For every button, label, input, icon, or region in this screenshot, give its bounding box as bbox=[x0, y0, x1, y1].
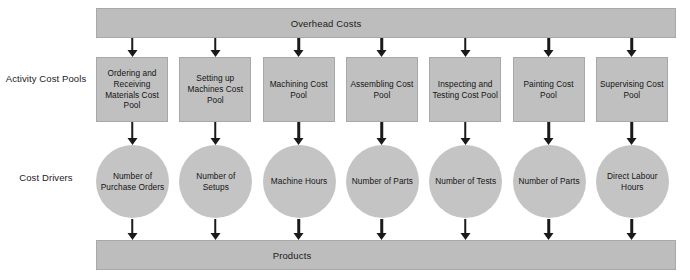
arrow-head bbox=[377, 233, 387, 240]
arrow-shaft bbox=[631, 219, 634, 233]
row-label-cost-drivers: Cost Drivers bbox=[0, 172, 92, 184]
cost-driver-label: Machine Hours bbox=[268, 176, 330, 187]
activity-based-costing-diagram: Overhead Costs Activity Cost Pools Cost … bbox=[0, 0, 690, 280]
arrow-shaft bbox=[131, 38, 134, 50]
cost-pool-box: Assembling Cost Pool bbox=[346, 57, 418, 122]
arrow-head bbox=[627, 233, 637, 240]
cost-driver-oval: Direct Labour Hours bbox=[596, 145, 669, 218]
arrow-head bbox=[544, 138, 554, 145]
cost-pool-box: Setting up Machines Cost Pool bbox=[179, 57, 251, 122]
arrow-shaft bbox=[631, 122, 634, 138]
arrow-shaft bbox=[547, 219, 550, 233]
arrow-head bbox=[460, 233, 470, 240]
arrow-cost-driver-to-products bbox=[543, 219, 554, 240]
arrow-cost-driver-to-products bbox=[293, 219, 304, 240]
arrow-head bbox=[127, 50, 137, 57]
arrow-cost-pool-to-cost-driver bbox=[460, 122, 471, 145]
arrow-cost-pool-to-cost-driver bbox=[543, 122, 554, 145]
arrow-head bbox=[460, 50, 470, 57]
cost-driver-label: Number of Parts bbox=[515, 176, 582, 187]
cost-driver-oval: Number of Purchase Orders bbox=[96, 145, 169, 218]
cost-pool-column: Painting Cost PoolNumber of Parts bbox=[513, 0, 585, 280]
cost-pool-box: Ordering and Receiving Materials Cost Po… bbox=[96, 57, 168, 122]
cost-driver-oval: Number of Setups bbox=[179, 145, 252, 218]
arrow-shaft bbox=[547, 38, 550, 50]
arrow-cost-pool-to-cost-driver bbox=[293, 122, 304, 145]
arrow-overhead-to-cost-pool bbox=[376, 38, 387, 57]
cost-pool-box: Inspecting and Testing Cost Pool bbox=[429, 57, 501, 122]
cost-pool-label: Supervising Cost Pool bbox=[597, 79, 667, 101]
arrow-head bbox=[377, 50, 387, 57]
cost-driver-oval: Machine Hours bbox=[263, 145, 336, 218]
arrow-shaft bbox=[131, 219, 134, 233]
arrow-shaft bbox=[131, 122, 134, 138]
cost-pool-column: Assembling Cost PoolNumber of Parts bbox=[346, 0, 418, 280]
arrow-shaft bbox=[214, 122, 217, 138]
arrow-overhead-to-cost-pool bbox=[127, 38, 138, 57]
arrow-head bbox=[294, 138, 304, 145]
arrow-head bbox=[294, 233, 304, 240]
arrow-head bbox=[460, 138, 470, 145]
cost-driver-oval: Number of Tests bbox=[429, 145, 502, 218]
arrow-shaft bbox=[631, 38, 634, 50]
arrow-shaft bbox=[297, 38, 300, 50]
arrow-head bbox=[210, 138, 220, 145]
arrow-shaft bbox=[381, 219, 384, 233]
arrow-cost-pool-to-cost-driver bbox=[626, 122, 637, 145]
arrow-shaft bbox=[381, 122, 384, 138]
arrow-shaft bbox=[297, 219, 300, 233]
cost-pool-column: Ordering and Receiving Materials Cost Po… bbox=[96, 0, 168, 280]
arrow-shaft bbox=[297, 122, 300, 138]
arrow-cost-pool-to-cost-driver bbox=[210, 122, 221, 145]
arrow-cost-pool-to-cost-driver bbox=[376, 122, 387, 145]
arrow-head bbox=[210, 233, 220, 240]
arrow-head bbox=[377, 138, 387, 145]
cost-pool-label: Ordering and Receiving Materials Cost Po… bbox=[97, 68, 167, 112]
cost-driver-label: Number of Tests bbox=[432, 176, 499, 187]
arrow-cost-driver-to-products bbox=[376, 219, 387, 240]
cost-driver-label: Number of Parts bbox=[349, 176, 416, 187]
cost-driver-oval: Number of Parts bbox=[346, 145, 419, 218]
cost-pool-box: Painting Cost Pool bbox=[513, 57, 585, 122]
arrow-cost-pool-to-cost-driver bbox=[127, 122, 138, 145]
arrow-cost-driver-to-products bbox=[626, 219, 637, 240]
arrow-head bbox=[294, 50, 304, 57]
arrow-shaft bbox=[214, 219, 217, 233]
cost-pool-box: Supervising Cost Pool bbox=[596, 57, 668, 122]
cost-pool-column: Machining Cost PoolMachine Hours bbox=[263, 0, 335, 280]
products-label: Products bbox=[273, 250, 312, 261]
products-bar: Products bbox=[96, 240, 676, 270]
arrow-shaft bbox=[464, 38, 467, 50]
cost-pool-column: Inspecting and Testing Cost PoolNumber o… bbox=[429, 0, 501, 280]
arrow-head bbox=[127, 138, 137, 145]
arrow-head bbox=[210, 50, 220, 57]
cost-pool-box: Machining Cost Pool bbox=[263, 57, 335, 122]
arrow-overhead-to-cost-pool bbox=[626, 38, 637, 57]
arrow-shaft bbox=[464, 219, 467, 233]
arrow-overhead-to-cost-pool bbox=[293, 38, 304, 57]
arrow-shaft bbox=[214, 38, 217, 50]
row-label-activity-cost-pools: Activity Cost Pools bbox=[0, 73, 92, 85]
cost-driver-label: Number of Setups bbox=[179, 171, 252, 193]
arrow-head bbox=[627, 138, 637, 145]
arrow-head bbox=[127, 233, 137, 240]
arrow-head bbox=[544, 233, 554, 240]
cost-pool-label: Painting Cost Pool bbox=[514, 79, 584, 101]
arrow-overhead-to-cost-pool bbox=[460, 38, 471, 57]
cost-driver-label: Direct Labour Hours bbox=[596, 171, 669, 193]
arrow-shaft bbox=[547, 122, 550, 138]
arrow-cost-driver-to-products bbox=[460, 219, 471, 240]
cost-pool-label: Machining Cost Pool bbox=[264, 79, 334, 101]
arrow-head bbox=[544, 50, 554, 57]
cost-driver-label: Number of Purchase Orders bbox=[96, 171, 169, 193]
arrow-head bbox=[627, 50, 637, 57]
arrow-overhead-to-cost-pool bbox=[543, 38, 554, 57]
cost-pool-column: Supervising Cost PoolDirect Labour Hours bbox=[596, 0, 668, 280]
arrow-overhead-to-cost-pool bbox=[210, 38, 221, 57]
cost-pool-label: Inspecting and Testing Cost Pool bbox=[430, 79, 500, 101]
cost-pool-label: Setting up Machines Cost Pool bbox=[180, 73, 250, 106]
cost-pool-label: Assembling Cost Pool bbox=[347, 79, 417, 101]
arrow-shaft bbox=[464, 122, 467, 138]
arrow-cost-driver-to-products bbox=[210, 219, 221, 240]
arrow-shaft bbox=[381, 38, 384, 50]
